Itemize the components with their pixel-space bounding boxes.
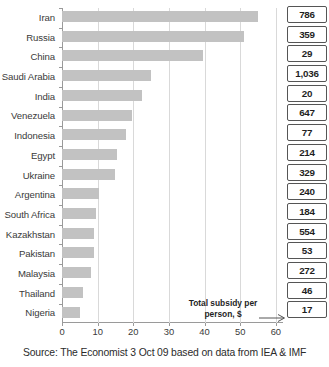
y-axis-tick xyxy=(59,87,62,88)
value-box: 184 xyxy=(287,203,327,220)
bar-row xyxy=(62,225,283,245)
x-axis-tick-label: 10 xyxy=(92,326,102,337)
bar xyxy=(62,287,83,298)
y-axis-tick xyxy=(59,8,62,9)
bar-row xyxy=(62,146,283,166)
y-axis-tick xyxy=(59,126,62,127)
x-axis-tick-label: 60 xyxy=(271,326,281,337)
value-box: 214 xyxy=(287,144,327,161)
category-label: Venezuela xyxy=(0,106,58,126)
category-label: Egypt xyxy=(0,146,58,166)
y-axis-tick xyxy=(59,284,62,285)
bar-row xyxy=(62,205,283,225)
bar-row xyxy=(62,185,283,205)
x-axis-tick-label: 0 xyxy=(59,326,64,337)
bar-row xyxy=(62,28,283,48)
bar xyxy=(62,31,244,42)
y-axis-tick xyxy=(59,28,62,29)
bar-row xyxy=(62,87,283,107)
value-box-column: 786359291,036206477721432924018455453272… xyxy=(287,6,327,321)
y-axis-tick xyxy=(59,47,62,48)
bar xyxy=(62,228,94,239)
bar-row xyxy=(62,8,283,28)
bar xyxy=(62,307,80,318)
value-box: 1,036 xyxy=(287,65,327,82)
x-axis-tick-label: 30 xyxy=(164,326,174,337)
y-axis-tick xyxy=(59,107,62,108)
value-box: 53 xyxy=(287,242,327,259)
bar xyxy=(62,129,126,140)
value-box: 20 xyxy=(287,85,327,102)
value-box: 240 xyxy=(287,183,327,200)
bar xyxy=(62,208,96,219)
y-axis-tick xyxy=(59,205,62,206)
value-box: 272 xyxy=(287,262,327,279)
bar xyxy=(62,11,258,22)
category-label: China xyxy=(0,47,58,67)
bar xyxy=(62,149,117,160)
category-label: Saudi Arabia xyxy=(0,67,58,87)
category-label: India xyxy=(0,87,58,107)
bar xyxy=(62,247,94,258)
bar-row xyxy=(62,107,283,127)
category-label: Indonesia xyxy=(0,126,58,146)
value-box: 786 xyxy=(287,6,327,23)
plot-area xyxy=(62,8,283,323)
category-label: Iran xyxy=(0,8,58,28)
category-label: Russia xyxy=(0,28,58,48)
value-box: 17 xyxy=(287,301,327,318)
bar xyxy=(62,169,115,180)
x-axis-tick-label: 20 xyxy=(128,326,138,337)
value-box: 647 xyxy=(287,104,327,121)
bar xyxy=(62,90,142,101)
bar xyxy=(62,267,91,278)
annotation-line-2: person, $ xyxy=(183,309,263,320)
value-box: 554 xyxy=(287,223,327,240)
value-box: 359 xyxy=(287,26,327,43)
y-axis-tick xyxy=(59,146,62,147)
source-note: Source: The Economist 3 Oct 09 based on … xyxy=(0,347,329,358)
category-label: Nigeria xyxy=(0,303,58,323)
y-axis-tick xyxy=(59,166,62,167)
y-axis-tick xyxy=(59,225,62,226)
value-box: 77 xyxy=(287,124,327,141)
value-box: 46 xyxy=(287,282,327,299)
category-label: Ukraine xyxy=(0,166,58,186)
arrow-right-icon xyxy=(259,313,287,323)
y-axis-tick xyxy=(59,67,62,68)
y-axis-tick xyxy=(59,264,62,265)
bar-chart: IranRussiaChinaSaudi ArabiaIndiaVenezuel… xyxy=(0,0,329,367)
bar-row xyxy=(62,126,283,146)
category-label: South Africa xyxy=(0,205,58,225)
value-box: 29 xyxy=(287,45,327,62)
bar-row xyxy=(62,264,283,284)
category-label: Kazakhstan xyxy=(0,225,58,245)
chart-annotation: Total subsidy per person, $ xyxy=(183,298,263,320)
category-label: Pakistan xyxy=(0,244,58,264)
y-axis-tick xyxy=(59,304,62,305)
category-label: Argentina xyxy=(0,185,58,205)
x-axis-tick-label: 40 xyxy=(199,326,209,337)
bar xyxy=(62,110,132,121)
y-axis-tick xyxy=(59,185,62,186)
y-axis-tick xyxy=(59,244,62,245)
bar-row xyxy=(62,67,283,87)
value-box: 329 xyxy=(287,164,327,181)
bar-row xyxy=(62,166,283,186)
category-label: Thailand xyxy=(0,284,58,304)
x-axis-tick-labels: 0102030405060 xyxy=(62,326,283,340)
bar-row xyxy=(62,47,283,67)
bar xyxy=(62,50,203,61)
bar xyxy=(62,188,99,199)
x-axis-tick-label: 50 xyxy=(235,326,245,337)
annotation-line-1: Total subsidy per xyxy=(183,298,263,309)
category-label-column: IranRussiaChinaSaudi ArabiaIndiaVenezuel… xyxy=(0,8,58,323)
bar-row xyxy=(62,244,283,264)
category-label: Malaysia xyxy=(0,264,58,284)
bar xyxy=(62,70,151,81)
